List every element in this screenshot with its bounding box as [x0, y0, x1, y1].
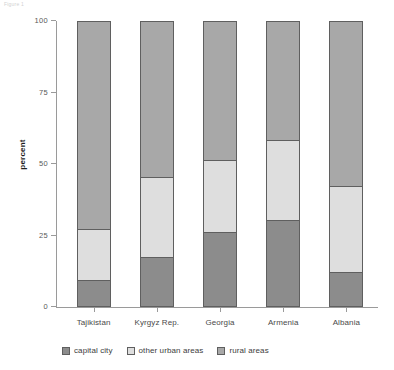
stacked-bar[interactable] — [329, 21, 363, 307]
y-axis-tick-label: 50 — [39, 159, 48, 169]
bar-segment[interactable] — [330, 21, 362, 186]
x-axis-tick-label: Albania — [296, 317, 394, 328]
x-axis-tick-mark — [220, 307, 221, 312]
y-axis-tick: 25 — [14, 231, 56, 241]
bar-segment[interactable] — [330, 272, 362, 306]
y-axis-tick-label: 100 — [35, 16, 48, 26]
bar-segment[interactable] — [141, 177, 173, 257]
y-axis-tick-mark — [51, 92, 56, 93]
y-axis-line — [56, 21, 57, 307]
y-axis-tick-mark — [51, 20, 56, 21]
stacked-bar[interactable] — [77, 21, 111, 307]
stacked-bar[interactable] — [140, 21, 174, 307]
y-axis-tick: 0 — [14, 302, 56, 312]
bar-segment[interactable] — [267, 140, 299, 220]
y-axis-tick-mark — [51, 306, 56, 307]
plot-area: 0255075100 TajikistanKyrgyz Rep.GeorgiaA… — [62, 21, 378, 307]
legend-label: other urban areas — [139, 346, 204, 356]
bar-segment[interactable] — [204, 21, 236, 160]
y-axis-tick-label: 75 — [39, 88, 48, 98]
stacked-bar[interactable] — [266, 21, 300, 307]
bar-segment[interactable] — [330, 186, 362, 272]
y-axis-tick-mark — [51, 235, 56, 236]
x-axis-tick-mark — [157, 307, 158, 312]
legend-label: rural areas — [229, 346, 268, 356]
bar-segment[interactable] — [141, 21, 173, 177]
bar-segment[interactable] — [204, 160, 236, 232]
y-axis-tick-label: 0 — [44, 302, 48, 312]
legend-swatch-icon — [217, 347, 225, 355]
y-axis-label: percent — [18, 125, 27, 185]
bar-segment[interactable] — [204, 232, 236, 306]
y-axis-tick: 75 — [14, 88, 56, 98]
x-axis-tick-mark — [94, 307, 95, 312]
legend-item[interactable]: other urban areas — [127, 346, 204, 356]
chart-legend: capital cityother urban areasrural areas — [62, 344, 362, 358]
bar-segment[interactable] — [78, 229, 110, 280]
bar-segment[interactable] — [141, 257, 173, 306]
y-axis-tick-label: 25 — [39, 231, 48, 241]
bar-segment[interactable] — [78, 280, 110, 306]
legend-item[interactable]: capital city — [62, 346, 113, 356]
y-axis-tick-mark — [51, 163, 56, 164]
corner-caption: Figure 1 — [4, 1, 24, 7]
bar-segment[interactable] — [267, 220, 299, 306]
x-axis-tick-mark — [346, 307, 347, 312]
legend-swatch-icon — [127, 347, 135, 355]
legend-item[interactable]: rural areas — [217, 346, 268, 356]
legend-label: capital city — [74, 346, 113, 356]
stacked-bar[interactable] — [203, 21, 237, 307]
y-axis-tick: 100 — [14, 16, 56, 26]
bar-segment[interactable] — [267, 21, 299, 140]
x-axis-line — [56, 307, 378, 308]
y-axis-tick: 50 — [14, 159, 56, 169]
x-axis-tick-mark — [283, 307, 284, 312]
legend-swatch-icon — [62, 347, 70, 355]
chart-figure: Figure 1 percent 0255075100 TajikistanKy… — [0, 0, 394, 370]
bar-segment[interactable] — [78, 21, 110, 229]
